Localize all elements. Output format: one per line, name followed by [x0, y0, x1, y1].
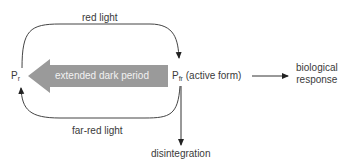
red-light-arc — [22, 24, 179, 68]
phytochrome-diagram: red light far-red light extended dark pe… — [0, 0, 360, 165]
far-red-light-arc — [21, 86, 180, 118]
pfr-label: Pfr (active form) — [172, 70, 241, 85]
pr-label: Pr — [11, 70, 20, 85]
extended-dark-period-label: extended dark period — [55, 70, 149, 81]
red-light-label: red light — [82, 12, 118, 24]
biological-response-label: biologicalresponse — [296, 62, 338, 86]
disintegration-label: disintegration — [151, 148, 210, 160]
far-red-light-label: far-red light — [72, 125, 123, 137]
